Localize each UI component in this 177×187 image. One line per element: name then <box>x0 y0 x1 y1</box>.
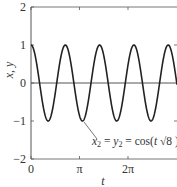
y-tick-label: 2 <box>20 0 26 14</box>
curve-annotation: x2 = y2 = cos(t √8 ) <box>91 135 177 149</box>
x-tick-label: π <box>76 162 82 176</box>
x-axis-label: t <box>101 174 105 187</box>
chart-root: 210−1−20π2π x2 = y2 = cos(t √8 ) t x, y <box>0 0 177 187</box>
y-tick-label: 1 <box>20 38 26 52</box>
chart-svg: 210−1−20π2π x2 = y2 = cos(t √8 ) t x, y <box>0 0 177 187</box>
y-axis-label: x, y <box>2 61 16 79</box>
y-tick-label: −2 <box>13 152 26 166</box>
x-tick-label: 2π <box>122 162 134 176</box>
x-tick-label: 0 <box>28 162 34 176</box>
y-tick-label: 0 <box>20 76 26 90</box>
y-tick-label: −1 <box>13 114 26 128</box>
